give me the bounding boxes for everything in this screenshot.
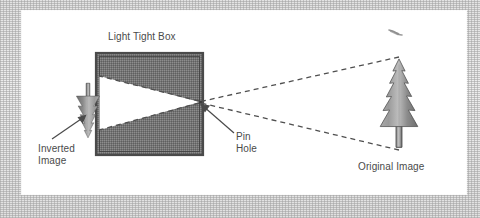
ray-top-of-tree [201,57,399,102]
figure-canvas: Light Tight Box Inverted Image Pin Hole … [0,0,480,218]
label-original-image: Original Image [358,161,424,173]
ray-base-of-tree [201,103,399,150]
original-tree-image [380,59,418,147]
label-inverted-image: Inverted Image [38,143,75,166]
arrow-icon-pin-hole [201,105,234,134]
pinhole-camera-diagram [0,0,480,218]
label-light-tight-box: Light Tight Box [108,31,176,43]
arrow-icon-inverted-image [52,116,86,140]
label-pin-hole: Pin Hole [236,131,257,154]
bird-icon [389,30,402,35]
pin-hole-point [199,100,202,103]
